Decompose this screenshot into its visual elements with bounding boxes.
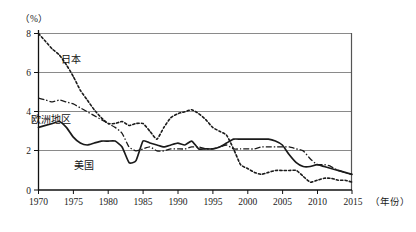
x-tick-label-2000: 2000 [238, 197, 257, 207]
y-tick-label-6: 6 [26, 68, 31, 78]
x-tick-label-2010: 2010 [308, 197, 327, 207]
y-tick-label-8: 8 [26, 29, 31, 39]
x-tick-label-2005: 2005 [273, 197, 292, 207]
series-label-usa: 美国 [74, 159, 94, 171]
x-axis-caption: （年份） [370, 196, 410, 207]
x-tick-label-1970: 1970 [29, 197, 48, 207]
x-tick-label-1990: 1990 [169, 197, 188, 207]
series-label-japan: 日本 [61, 53, 81, 65]
x-tick-label-1995: 1995 [203, 197, 222, 207]
y-tick-label-0: 0 [26, 186, 31, 196]
y-axis-unit-label: （%） [20, 13, 48, 24]
x-axis-caption-text: 年份 [380, 196, 400, 207]
chart-page: （%） 8 6 4 2 0 1970 1975 1980 1985 1990 1… [0, 0, 416, 232]
series-label-europe: 欧洲地区 [31, 113, 71, 125]
line-chart: （%） 8 6 4 2 0 1970 1975 1980 1985 1990 1… [0, 0, 416, 232]
x-tick-label-1975: 1975 [64, 197, 83, 207]
x-tick-label-1980: 1980 [99, 197, 118, 207]
x-tick-label-1985: 1985 [134, 197, 153, 207]
x-tick-label-2015: 2015 [344, 197, 363, 207]
y-tick-label-2: 2 [26, 146, 31, 156]
y-tick-marks [34, 34, 39, 191]
